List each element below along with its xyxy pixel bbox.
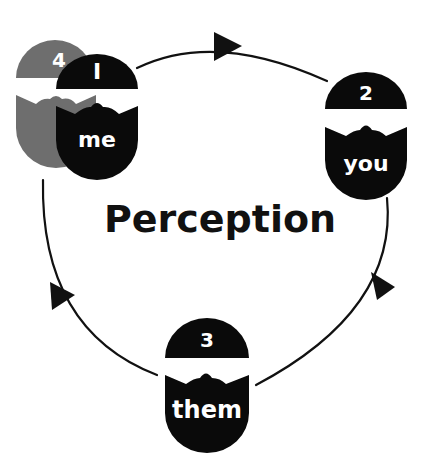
arrowhead-top-icon [214,32,242,61]
arc-me-to-you [137,52,327,81]
figure-you: 2 you [324,72,408,200]
figure-me-label: me [57,129,137,151]
figure-you-label: you [326,153,406,175]
figure-me: I me [55,54,139,180]
figure-you-number: 2 [351,83,381,103]
perception-cycle-diagram: 4 I me 2 you 3 them Perception [0,0,431,466]
figure-them-label: them [162,398,252,422]
diagram-title: Perception [100,200,340,238]
arrowhead-right-icon [371,272,395,300]
figure-them: 3 them [164,318,250,456]
figure-them-number: 3 [192,330,222,350]
figure-me-number: I [82,61,112,83]
